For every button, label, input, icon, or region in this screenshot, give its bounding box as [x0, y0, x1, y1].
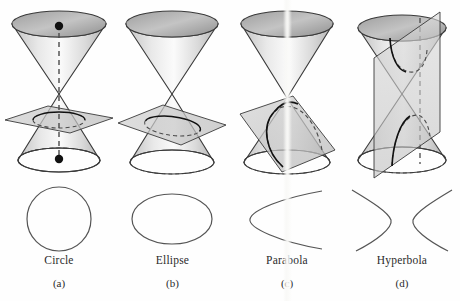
cone-svg-hyperbola: [344, 2, 460, 186]
curve-svg-circle: [0, 186, 118, 256]
panel-ellipse: Ellipse (b): [115, 0, 230, 301]
caption-hyperbola-name: Hyperbola: [344, 254, 460, 266]
panel-circle: Circle (a): [0, 0, 118, 301]
cone-svg-circle: [0, 2, 118, 186]
conic-curve-circle: [0, 186, 118, 256]
cone-svg-parabola: [230, 2, 344, 186]
curve-svg-ellipse: [115, 186, 230, 256]
focus-dot-lower: [55, 155, 63, 163]
cone-diagram-hyperbola: [344, 2, 460, 186]
upper-nappe-parabola: [241, 11, 333, 98]
curve-svg-hyperbola: [344, 186, 460, 256]
caption-ellipse-name: Ellipse: [115, 254, 230, 266]
panel-hyperbola: Hyperbola (d): [344, 0, 460, 301]
curve-svg-parabola: [230, 186, 344, 256]
caption-parabola-letter: (c): [230, 277, 344, 289]
hyperbola-branch-left: [352, 190, 391, 251]
caption-ellipse-letter: (b): [115, 277, 230, 289]
cone-diagram-ellipse: [115, 2, 230, 186]
caption-hyperbola-letter: (d): [344, 277, 460, 289]
cone-diagram-circle: [0, 2, 118, 186]
cutting-plane-parabola: [240, 96, 335, 172]
conic-curve-parabola: [230, 186, 344, 256]
hyperbola-branch-right: [413, 190, 452, 251]
panel-parabola: Parabola (c): [230, 0, 344, 301]
focus-dot-upper: [55, 22, 63, 30]
caption-circle-name: Circle: [0, 254, 118, 266]
caption-parabola-name: Parabola: [230, 254, 344, 266]
caption-circle-letter: (a): [0, 277, 118, 289]
conic-curve-hyperbola: [344, 186, 460, 256]
upper-nappe-ellipse: [126, 11, 218, 94]
cone-svg-ellipse: [115, 2, 230, 186]
conic-curve-ellipse: [115, 186, 230, 256]
cone-diagram-parabola: [230, 2, 344, 186]
conic-sections-figure: Circle (a): [0, 0, 460, 301]
cutting-plane-ellipse: [118, 105, 226, 145]
